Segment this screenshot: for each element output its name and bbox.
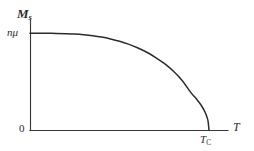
y-axis-label: Ms — [17, 7, 32, 22]
x-axis-label: T — [233, 121, 240, 133]
plot-canvas — [0, 0, 254, 151]
magnetization-curve — [30, 33, 209, 130]
y-axis-label-subscript: s — [29, 12, 32, 22]
curie-temperature-label: TC — [200, 134, 211, 147]
figure-container: Ms nμ 0 TC T — [0, 0, 254, 151]
y-axis-label-symbol: M — [17, 6, 29, 21]
origin-label: 0 — [19, 123, 25, 134]
curie-temperature-subscript: C — [206, 139, 211, 147]
y-axis-tick-label-saturation: nμ — [7, 27, 18, 38]
